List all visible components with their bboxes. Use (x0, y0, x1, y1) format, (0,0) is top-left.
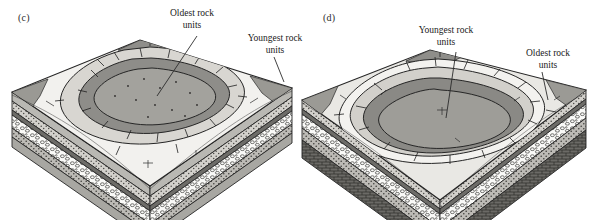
panel-d-tag: (d) (323, 12, 335, 23)
leader-line-c-youngest (274, 57, 284, 82)
panel-d-label-youngest-rock-units: Youngest rock units (398, 25, 494, 48)
panel-d-block (302, 49, 586, 220)
panel-c-block (12, 36, 292, 220)
panel-d-label-oldest-rock-units: Oldest rock units (508, 48, 588, 71)
panel-c-label-oldest-rock-units: Oldest rock units (146, 8, 238, 31)
panel-c-tag: (c) (18, 12, 30, 23)
figure-root: (c) (d) Oldest rock units Youngest rock … (0, 0, 600, 220)
panel-c-label-youngest-rock-units: Youngest rock units (232, 33, 318, 56)
